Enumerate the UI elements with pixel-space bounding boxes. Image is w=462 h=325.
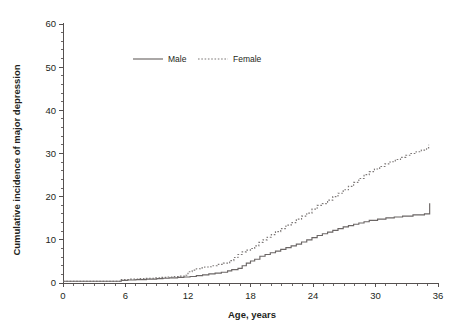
y-tick-label: 40 [45, 105, 56, 116]
x-axis-major-ticks [63, 283, 438, 287]
series-line-female [63, 145, 429, 281]
x-tick-label: 24 [308, 290, 319, 301]
y-tick-label: 10 [45, 234, 56, 245]
y-axis-tick-labels: 0102030405060 [45, 18, 56, 288]
series-line-male [63, 203, 430, 281]
y-axis-major-ticks [59, 24, 63, 283]
x-tick-label: 30 [370, 290, 381, 301]
x-tick-label: 6 [123, 290, 128, 301]
y-tick-label: 60 [45, 18, 56, 29]
chart-legend: Male Female [133, 54, 262, 64]
legend-label-male: Male [168, 54, 187, 64]
x-tick-label: 12 [183, 290, 194, 301]
y-tick-label: 30 [45, 148, 56, 159]
y-axis-title: Cumulative incidence of major depression [11, 64, 22, 255]
chart-figure: 0102030405060 061218243036 Cumulative in… [0, 0, 462, 325]
legend-label-female: Female [233, 54, 262, 64]
x-tick-label: 36 [433, 290, 444, 301]
y-tick-label: 20 [45, 191, 56, 202]
y-tick-label: 0 [51, 277, 56, 288]
x-tick-label: 0 [60, 290, 65, 301]
chart-plot-area: 0102030405060 061218243036 Cumulative in… [0, 0, 462, 325]
x-tick-label: 18 [245, 290, 256, 301]
x-axis-title: Age, years [228, 309, 276, 320]
y-tick-label: 50 [45, 62, 56, 73]
x-axis-tick-labels: 061218243036 [60, 290, 443, 301]
